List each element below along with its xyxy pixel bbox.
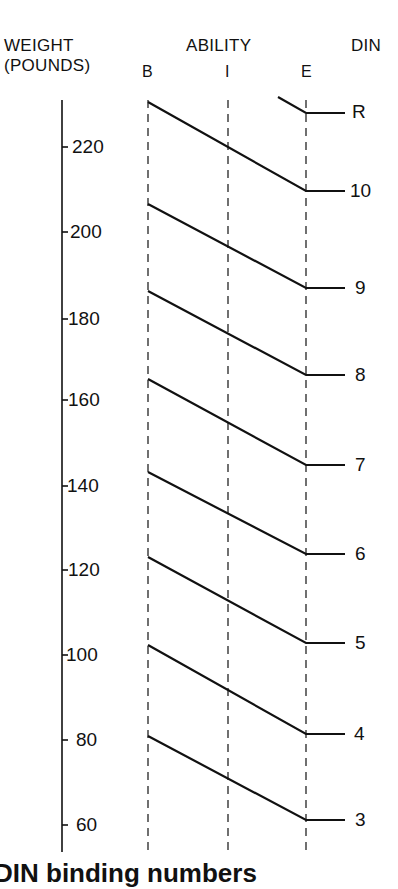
din-label-4: 4 (354, 723, 365, 745)
weight-tick-80: 80 (76, 729, 97, 751)
weight-tick-200: 200 (70, 221, 102, 243)
weight-tick-160: 160 (68, 389, 100, 411)
din-label-6: 6 (355, 543, 366, 565)
din-label-8: 8 (355, 364, 366, 386)
din-label-7: 7 (355, 454, 366, 476)
chart-caption: DIN binding numbers (0, 858, 257, 889)
weight-tick-60: 60 (76, 814, 97, 836)
din-label-5: 5 (355, 632, 366, 654)
weight-tick-180: 180 (68, 308, 100, 330)
din-label-10: 10 (350, 180, 371, 202)
din-label-3: 3 (355, 809, 366, 831)
din-label-9: 9 (355, 277, 366, 299)
weight-tick-100: 100 (66, 644, 98, 666)
din-label-r: R (352, 101, 366, 123)
weight-tick-140: 140 (67, 475, 99, 497)
weight-tick-220: 220 (72, 136, 104, 158)
weight-tick-120: 120 (68, 559, 100, 581)
